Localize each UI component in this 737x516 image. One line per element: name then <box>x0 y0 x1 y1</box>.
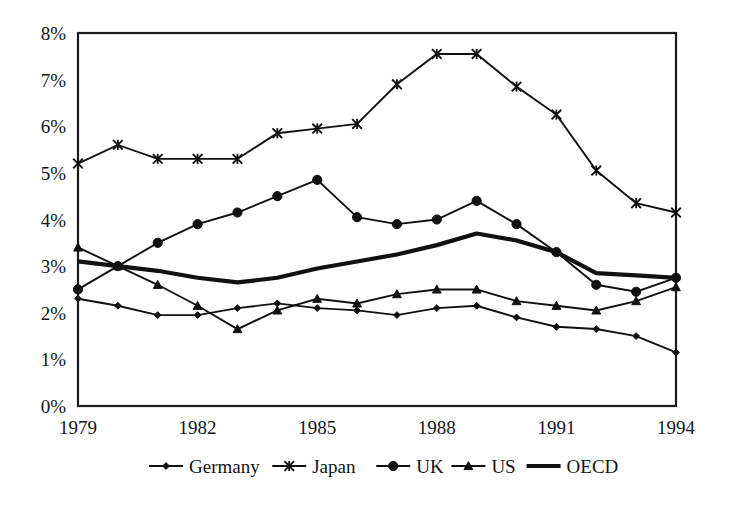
y-tick-label: 5% <box>41 163 67 184</box>
x-tick-label: 1979 <box>59 417 97 438</box>
x-tick-label: 1991 <box>537 417 575 438</box>
y-tick-label: 4% <box>41 210 67 231</box>
line-chart: 0%1%2%3%4%5%6%7%8% 197919821985198819911… <box>0 0 737 516</box>
circle-marker <box>313 175 322 184</box>
circle-marker <box>472 196 481 205</box>
circle-marker <box>389 461 398 470</box>
legend-label: Japan <box>312 456 356 477</box>
y-axis-tick-labels: 0%1%2%3%4%5%6%7%8% <box>41 23 67 417</box>
x-tick-label: 1985 <box>298 417 336 438</box>
y-tick-label: 8% <box>41 23 67 44</box>
y-tick-label: 1% <box>41 349 67 370</box>
circle-marker <box>193 220 202 229</box>
chart-container: 0%1%2%3%4%5%6%7%8% 197919821985198819911… <box>0 0 737 516</box>
circle-marker <box>632 287 641 296</box>
x-tick-label: 1988 <box>418 417 456 438</box>
circle-marker <box>233 208 242 217</box>
y-tick-label: 6% <box>41 116 67 137</box>
circle-marker <box>153 238 162 247</box>
circle-marker <box>273 192 282 201</box>
y-tick-label: 7% <box>41 70 67 91</box>
circle-marker <box>592 280 601 289</box>
legend-label: US <box>491 456 515 477</box>
legend-label: UK <box>416 456 444 477</box>
circle-marker <box>432 215 441 224</box>
y-tick-label: 2% <box>41 303 67 324</box>
x-tick-label: 1994 <box>657 417 696 438</box>
circle-marker <box>392 220 401 229</box>
circle-marker <box>73 285 82 294</box>
circle-marker <box>352 213 361 222</box>
y-tick-label: 0% <box>41 396 67 417</box>
legend-label: OECD <box>567 456 619 477</box>
y-tick-label: 3% <box>41 256 67 277</box>
x-tick-label: 1982 <box>179 417 217 438</box>
legend-label: Germany <box>189 456 260 477</box>
circle-marker <box>512 220 521 229</box>
